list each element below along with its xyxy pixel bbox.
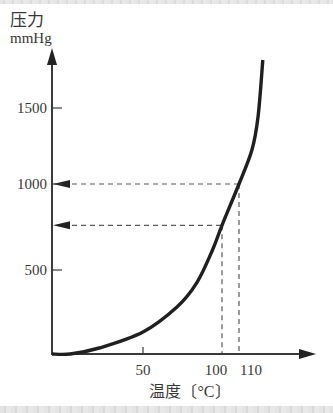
x-tick-label: 100 [205, 362, 228, 378]
dashed-guides [53, 180, 239, 354]
y-axis-label-quantity: 压力 [10, 11, 44, 30]
arrow-right-icon [299, 349, 316, 359]
x-axis-label: 温度〔°C〕 [149, 383, 230, 400]
y-axis-label-unit: mmHg [10, 30, 52, 46]
y-tick-label: 500 [25, 262, 48, 278]
y-tick-label: 1500 [17, 100, 47, 116]
vapor-pressure-chart: 5001000150050100110 压力 mmHg 温度〔°C〕 [0, 0, 333, 413]
x-tick-label: 50 [136, 362, 151, 378]
chart-figure: 5001000150050100110 压力 mmHg 温度〔°C〕 [0, 0, 333, 413]
curve-layer [52, 60, 263, 354]
y-tick-label: 1000 [17, 176, 47, 192]
x-tick-label: 110 [240, 362, 262, 378]
ticks: 5001000150050100110 [17, 100, 262, 378]
axes [47, 48, 316, 359]
arrow-up-icon [47, 48, 57, 65]
arrow-left-icon [53, 221, 70, 229]
vapor-pressure-curve [52, 60, 263, 354]
